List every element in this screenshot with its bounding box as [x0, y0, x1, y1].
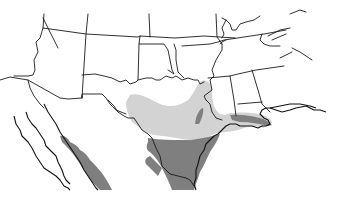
range-map	[0, 0, 348, 206]
dark-range-south-texas	[147, 134, 220, 190]
map-canvas	[0, 0, 348, 206]
light-range-area	[126, 80, 266, 139]
baja-california	[14, 112, 70, 190]
